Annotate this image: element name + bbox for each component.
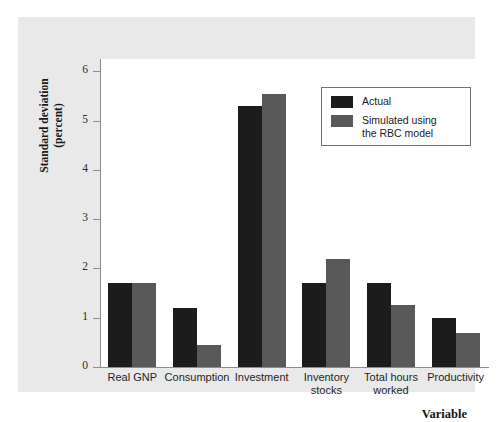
y-axis-tick: [93, 318, 100, 319]
y-axis-tick: [93, 268, 100, 269]
y-axis-tick-label: 3: [62, 211, 88, 223]
bar: [262, 94, 286, 368]
figure-panel: Standard deviation (percent) 0123456 Rea…: [18, 17, 475, 392]
bar: [132, 283, 156, 367]
y-axis-tick: [93, 121, 100, 122]
y-axis-tick: [93, 170, 100, 171]
bar: [238, 106, 262, 367]
legend-swatch-simulated: [331, 115, 353, 127]
bar: [432, 318, 456, 367]
legend-item-actual: Actual: [331, 95, 470, 108]
bar: [108, 283, 132, 367]
bar: [367, 283, 391, 367]
y-axis-tick-label: 2: [62, 260, 88, 272]
y-axis-tick-label: 4: [62, 162, 88, 174]
bar: [326, 259, 350, 367]
x-axis-line: [100, 367, 489, 368]
bar: [391, 305, 415, 367]
chart-legend: Actual Simulated using the RBC model: [321, 87, 471, 146]
bar-group: [237, 59, 287, 367]
y-axis-tick-label: 6: [62, 63, 88, 75]
bar-group: [107, 59, 157, 367]
x-axis-title: Variable: [422, 407, 467, 422]
bar: [197, 345, 221, 367]
legend-label-actual: Actual: [362, 95, 391, 108]
y-axis-line: [100, 59, 101, 368]
x-axis-tick-label: Productivity: [411, 371, 501, 384]
y-axis-tick-label: 0: [62, 359, 88, 371]
y-axis-tick-label: 1: [62, 310, 88, 322]
y-axis-tick: [93, 71, 100, 72]
legend-swatch-actual: [331, 96, 353, 108]
y-axis-title: Standard deviation (percent): [38, 26, 65, 226]
y-axis-tick-label: 5: [62, 113, 88, 125]
bar-group: [172, 59, 222, 367]
bar: [173, 308, 197, 367]
legend-label-simulated: Simulated using the RBC model: [362, 114, 437, 139]
y-axis-tick: [93, 219, 100, 220]
bar: [456, 333, 480, 367]
y-axis-tick: [93, 367, 100, 368]
legend-item-simulated: Simulated using the RBC model: [331, 114, 470, 139]
bar: [302, 283, 326, 367]
